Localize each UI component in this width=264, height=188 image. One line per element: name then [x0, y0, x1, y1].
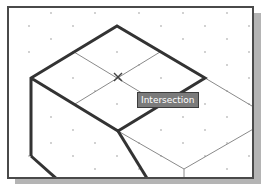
snap-tooltip: Intersection — [137, 92, 199, 108]
screenshot-stage: Intersection — [0, 0, 264, 188]
isometric-drawing[interactable] — [7, 6, 254, 179]
thin-edges — [74, 52, 254, 179]
drawing-viewport[interactable] — [7, 6, 254, 179]
